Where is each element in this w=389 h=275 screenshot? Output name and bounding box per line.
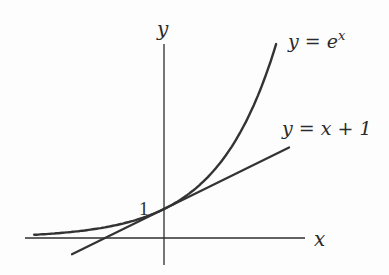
chart-figure: y x 1 y = ex y = x + 1 <box>0 0 389 275</box>
exp-curve-label-sup: x <box>338 28 346 43</box>
exp-curve <box>34 44 276 235</box>
exp-curve-label: y = ex <box>287 28 346 52</box>
x-axis-label: x <box>314 227 325 251</box>
y-axis-label: y <box>156 17 169 41</box>
intercept-label: 1 <box>139 198 149 219</box>
tangent-line-label: y = x + 1 <box>281 117 372 139</box>
plot-area: y x 1 y = ex y = x + 1 <box>0 0 389 275</box>
exp-curve-label-text: y = e <box>287 30 338 52</box>
